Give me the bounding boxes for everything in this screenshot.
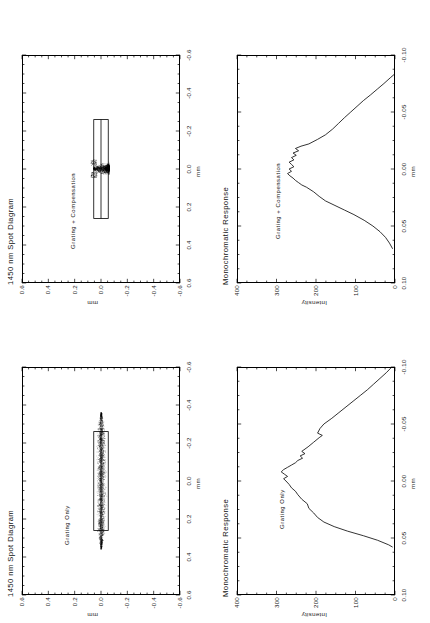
x-tick-label: -0.05 xyxy=(400,103,407,121)
spot-diagram-only-canvas xyxy=(22,367,180,595)
x-tick-label: 0.0 xyxy=(185,160,192,178)
y-tick-label: 400 xyxy=(233,597,240,613)
axis-label-x-response-compensation: mm xyxy=(409,166,416,177)
y-tick-label: 200 xyxy=(312,285,319,301)
x-tick-label: 0.4 xyxy=(185,548,192,566)
subtitle-spot-only: Grating Only xyxy=(64,505,70,545)
x-tick-label: -0.2 xyxy=(185,122,192,140)
subtitle-spot-compensation: Grating + Compensation xyxy=(70,173,76,249)
y-tick-label: 0.4 xyxy=(44,597,51,613)
x-tick-label: -0.2 xyxy=(185,434,192,452)
x-tick-label: -0.4 xyxy=(185,84,192,102)
response-compensation-canvas xyxy=(237,55,395,283)
page-title-spot-compensation: 1450 nm Spot Diagram xyxy=(6,198,15,285)
axis-label-y-response-compensation: Intensity xyxy=(301,300,327,307)
x-tick-label: 0.0 xyxy=(185,472,192,490)
axis-label-x-spot-only: mm xyxy=(194,478,201,489)
x-tick-label: -0.10 xyxy=(400,46,407,64)
y-tick-label: -0.2 xyxy=(123,285,130,301)
x-tick-label: -0.6 xyxy=(185,46,192,64)
y-tick-label: 0.6 xyxy=(18,597,25,613)
y-tick-label: 100 xyxy=(352,597,359,613)
y-tick-label: 0.6 xyxy=(18,285,25,301)
y-tick-label: 0.2 xyxy=(71,597,78,613)
y-tick-label: 0.4 xyxy=(44,285,51,301)
y-tick-label: 0 xyxy=(391,597,398,613)
x-tick-label: -0.10 xyxy=(400,358,407,376)
y-tick-label: 300 xyxy=(273,285,280,301)
y-tick-label: -0.4 xyxy=(150,597,157,613)
y-tick-label: -0.6 xyxy=(176,285,183,301)
axis-label-x-spot-compensation: mm xyxy=(194,166,201,177)
spot-diagram-compensation-canvas xyxy=(22,55,180,283)
subtitle-response-compensation: Grating + Compensation xyxy=(275,163,281,239)
panel-spot-grating-compensation: 0.60.40.20.0-0.2-0.4-0.6 0.60.40.20.0-0.… xyxy=(0,0,215,311)
y-tick-label: 0.2 xyxy=(71,285,78,301)
y-tick-label: 300 xyxy=(273,597,280,613)
x-tick-label: 0.10 xyxy=(400,586,407,604)
x-tick-label: -0.4 xyxy=(185,396,192,414)
subtitle-response-only: Grating Only xyxy=(279,489,285,529)
x-tick-label: 0.00 xyxy=(400,472,407,490)
y-tick-label: 0.0 xyxy=(97,285,104,301)
page-title-response-only: Monochromatic Response xyxy=(221,499,230,597)
y-tick-label: -0.4 xyxy=(150,285,157,301)
x-tick-label: 0.6 xyxy=(185,274,192,292)
axis-label-y-response-only: Intensity xyxy=(301,612,327,619)
y-tick-label: 0 xyxy=(391,285,398,301)
y-tick-label: -0.6 xyxy=(176,597,183,613)
y-tick-label: 200 xyxy=(312,597,319,613)
panel-response-grating-only: 0.100.050.00-0.05-0.10 4003002001000 Mon… xyxy=(215,311,430,623)
x-tick-label: 0.10 xyxy=(400,274,407,292)
panel-spot-grating-only: 0.60.40.20.0-0.2-0.4-0.6 0.60.40.20.0-0.… xyxy=(0,311,215,623)
x-tick-label: 0.2 xyxy=(185,198,192,216)
y-tick-label: 400 xyxy=(233,285,240,301)
axis-label-x-response-only: mm xyxy=(409,478,416,489)
y-tick-label: 100 xyxy=(352,285,359,301)
x-tick-label: 0.6 xyxy=(185,586,192,604)
x-tick-label: -0.05 xyxy=(400,415,407,433)
axis-label-y-spot-compensation: mm xyxy=(87,300,98,307)
response-only-canvas xyxy=(237,367,395,595)
x-tick-label: -0.6 xyxy=(185,358,192,376)
axis-label-y-spot-only: mm xyxy=(87,612,98,619)
y-tick-label: -0.2 xyxy=(123,597,130,613)
x-tick-label: 0.4 xyxy=(185,236,192,254)
x-tick-label: 0.00 xyxy=(400,160,407,178)
x-tick-label: 0.05 xyxy=(400,529,407,547)
page-title-spot-only: 1450 nm Spot Diagram xyxy=(6,510,15,597)
x-tick-label: 0.05 xyxy=(400,217,407,235)
page-title-response-compensation: Monochromatic Response xyxy=(221,187,230,285)
x-tick-label: 0.2 xyxy=(185,510,192,528)
y-tick-label: 0.0 xyxy=(97,597,104,613)
panel-response-grating-compensation: 0.100.050.00-0.05-0.10 4003002001000 Mon… xyxy=(215,0,430,311)
